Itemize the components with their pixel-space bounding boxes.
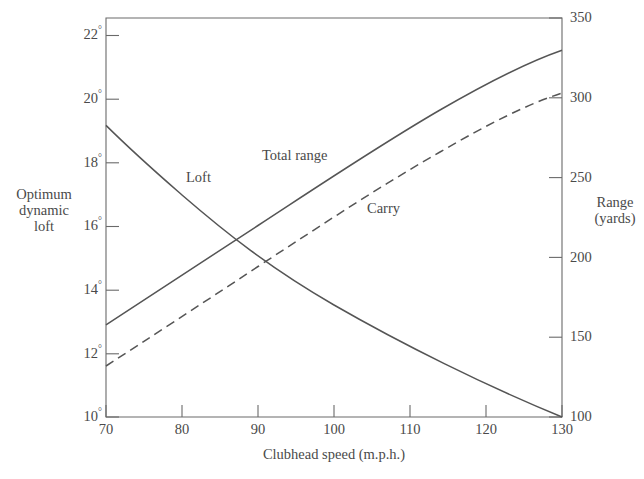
plot-frame (106, 18, 562, 417)
x-tick-label: 100 (314, 422, 354, 437)
series-loft-line (106, 125, 562, 417)
y-right-tick-label: 350 (570, 10, 620, 25)
y-axis-left-title-line: loft (6, 218, 82, 234)
x-tick-label: 120 (466, 422, 506, 437)
y-axis-left-title-line: dynamic (6, 202, 82, 218)
y-right-tick-label: 150 (570, 329, 620, 344)
y-left-tick-label: 22° (56, 27, 102, 42)
series-carry-line (106, 93, 562, 366)
y-right-tick-label: 300 (570, 90, 620, 105)
y-axis-left-title-line: Optimum (6, 186, 82, 202)
x-axis-title-text: Clubhead speed (m.p.h.) (263, 446, 405, 462)
y-right-ticks (549, 18, 562, 417)
x-tick-label: 80 (162, 422, 202, 437)
y-right-tick-label: 250 (570, 170, 620, 185)
chart-figure: 22° 20° 18° 16° 14° 12° 10° 350 300 250 … (0, 0, 644, 479)
y-right-tick-label: 200 (570, 250, 620, 265)
series-label-loft: Loft (186, 170, 211, 185)
x-tick-label: 130 (542, 422, 582, 437)
y-left-ticks (106, 36, 119, 418)
x-axis-title: Clubhead speed (m.p.h.) (184, 446, 484, 462)
y-axis-right-title-line: (yards) (586, 210, 644, 226)
y-left-tick-label: 14° (56, 282, 102, 297)
y-axis-left-title: Optimum dynamic loft (6, 186, 82, 235)
x-tick-label: 70 (86, 422, 126, 437)
x-ticks (106, 405, 562, 417)
series-label-total-range: Total range (262, 148, 327, 163)
y-left-tick-label: 18° (56, 155, 102, 170)
y-axis-right-title: Range (yards) (586, 194, 644, 226)
x-tick-label: 90 (238, 422, 278, 437)
y-left-tick-label: 12° (56, 346, 102, 361)
y-axis-right-title-line: Range (586, 194, 644, 210)
y-left-tick-label: 20° (56, 91, 102, 106)
x-tick-label: 110 (390, 422, 430, 437)
series-label-carry: Carry (367, 201, 400, 216)
